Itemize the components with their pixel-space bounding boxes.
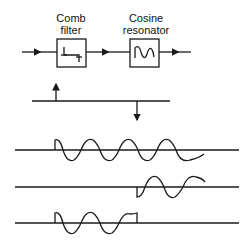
comb-filter-block [57,39,86,67]
impulse-timeline [32,84,170,120]
comb-filter-cosine-resonator-diagram: Comb filter Cosine resonator [0,0,251,248]
waveform-full-response [15,139,239,160]
comb-filter-label-line2: filter [61,24,82,36]
comb-filter-label-line1: Comb [56,12,85,24]
cosine-resonator-block [130,39,159,67]
waveform-result-burst [15,212,239,233]
waveform-delayed-cancel [15,176,239,197]
cosine-resonator-label-line2: resonator [123,24,170,36]
cosine-resonator-label-line1: Cosine [129,12,163,24]
